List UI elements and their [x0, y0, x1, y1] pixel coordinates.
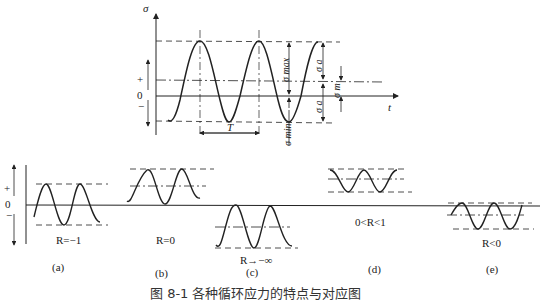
sigma-a-upper-label: σ a — [313, 60, 324, 72]
bottom-diagrams — [14, 165, 540, 248]
sigma-max-label: σ max — [280, 58, 291, 82]
case-a-ratio: R=−1 — [56, 235, 81, 246]
case-c-label: (c) — [246, 267, 258, 278]
sigma-m-label: σ m — [331, 83, 342, 98]
case-c-plot — [215, 205, 298, 248]
case-b-label: (b) — [155, 268, 168, 279]
case-e-plot — [447, 203, 534, 229]
top-diagram — [148, 14, 398, 145]
case-d-label: (d) — [368, 264, 381, 275]
case-b-ratio: R=0 — [156, 235, 175, 246]
bottom-sign-minus: − — [6, 210, 12, 221]
case-e-ratio: R<0 — [482, 238, 501, 249]
sigma-axis-label: σ — [143, 3, 148, 14]
case-b-plot — [127, 169, 214, 204]
top-sign-plus: + — [137, 74, 143, 85]
case-e-label: (e) — [486, 264, 498, 275]
case-d-ratio: 0<R<1 — [355, 217, 386, 228]
top-sign-minus: − — [138, 101, 144, 112]
case-a-label: (a) — [52, 262, 64, 273]
figure-caption: 图 8-1 各种循环应力的特点与对应图 — [150, 283, 362, 302]
period-label: T — [227, 122, 233, 133]
case-d-plot — [328, 169, 412, 192]
time-axis-label: t — [388, 102, 391, 113]
zero-baseline — [26, 205, 540, 206]
case-a-plot — [34, 184, 108, 225]
case-c-ratio: R→−∞ — [240, 255, 272, 266]
sigma-min-label: σ min — [282, 124, 293, 146]
sigma-a-lower-label: σ a — [313, 101, 324, 113]
bottom-sign-plus: + — [4, 183, 10, 194]
